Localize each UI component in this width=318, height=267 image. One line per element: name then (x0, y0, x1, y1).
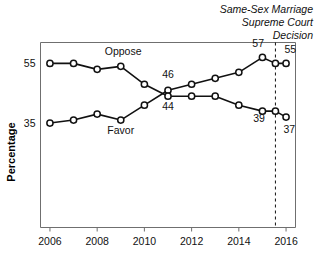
point-value-label: 44 (162, 100, 174, 112)
point-value-label: 55 (284, 43, 296, 55)
data-point-marker (118, 117, 124, 123)
data-point-marker (141, 81, 147, 87)
decision-annotation: Same-Sex MarriageSupreme CourtDecision (220, 3, 314, 41)
data-point-marker (70, 117, 76, 123)
x-tick-label: 2006 (38, 235, 62, 247)
data-point-marker (212, 93, 218, 99)
y-tick-label: 55 (24, 57, 36, 69)
x-axis-tick-labels: 200620082010201220142016 (38, 235, 298, 247)
data-point-marker (189, 93, 195, 99)
data-point-marker (47, 120, 53, 126)
data-point-marker (283, 60, 289, 66)
data-point-marker (94, 66, 100, 72)
data-point-marker (236, 102, 242, 108)
y-axis-title: Percentage (5, 122, 17, 181)
x-tick-label: 2010 (133, 235, 157, 247)
series-label-oppose: Oppose (105, 45, 142, 57)
chart-container: 200620082010201220142016 5535 Percentage… (0, 0, 318, 267)
x-tick-label: 2012 (180, 235, 204, 247)
decision-annotation-line: Same-Sex Marriage (220, 3, 314, 15)
data-point-marker (272, 60, 278, 66)
point-value-label: 39 (253, 112, 265, 124)
x-tick-label: 2014 (227, 235, 251, 247)
data-point-marker (236, 69, 242, 75)
decision-annotation-line: Decision (273, 29, 313, 41)
point-value-label: 46 (162, 68, 174, 80)
decision-annotation-line: Supreme Court (242, 16, 314, 28)
y-axis-tick-labels: 5535 (24, 57, 36, 129)
data-point-marker (272, 108, 278, 114)
data-point-marker (47, 60, 53, 66)
series-label-favor: Favor (107, 124, 134, 136)
data-point-marker (94, 111, 100, 117)
data-point-marker (259, 54, 265, 60)
line-chart: 200620082010201220142016 5535 Percentage… (0, 0, 318, 267)
data-point-marker (165, 93, 171, 99)
data-point-marker (118, 63, 124, 69)
data-point-marker (283, 114, 289, 120)
point-value-label: 37 (284, 123, 296, 135)
y-tick-label: 35 (24, 117, 36, 129)
data-point-marker (189, 81, 195, 87)
x-tick-label: 2016 (274, 235, 298, 247)
x-tick-label: 2008 (85, 235, 109, 247)
x-axis-ticks (50, 228, 286, 232)
point-value-label: 57 (252, 37, 264, 49)
data-point-marker (141, 102, 147, 108)
data-point-marker (70, 60, 76, 66)
data-point-marker (212, 75, 218, 81)
